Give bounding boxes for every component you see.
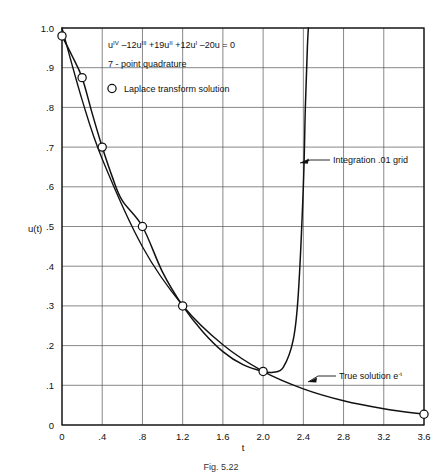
legend: Laplace transform solution (108, 84, 230, 94)
y-tick-label: 0 (49, 420, 54, 431)
legend-label-laplace: Laplace transform solution (124, 84, 230, 94)
data-point-marker (58, 32, 66, 40)
data-point-marker (98, 143, 106, 151)
y-axis-title: u(t) (28, 223, 42, 234)
x-tick-label: 2.0 (257, 431, 270, 442)
data-point-marker (420, 410, 428, 418)
y-tick-label: .8 (46, 102, 54, 113)
y-tick-label: .4 (46, 261, 54, 272)
y-tick-label: .2 (46, 340, 54, 351)
quadrature-method: 7 - point quadrature (108, 59, 187, 69)
x-tick-label: 2.4 (297, 431, 310, 442)
data-point-marker (138, 222, 146, 230)
x-tick-label: 1.6 (216, 431, 229, 442)
data-point-marker (78, 74, 86, 82)
x-tick-label: 1.2 (176, 431, 189, 442)
y-tick-label: .9 (46, 62, 54, 73)
legend-open-circle-icon (108, 84, 116, 92)
x-tick-label: 3.2 (377, 431, 390, 442)
data-point-marker (179, 302, 187, 310)
annotation-label-true-solution: True solution e-t (339, 370, 402, 381)
y-tick-label: .3 (46, 300, 54, 311)
figure-container: 0.4.81.21.62.02.42.83.23.6 0.1.2.3.4.5.6… (0, 0, 443, 475)
figure-caption: Fig. 5.22 (203, 462, 238, 472)
annotation-label-integration: Integration .01 grid (333, 155, 408, 165)
y-tick-label: .5 (46, 221, 54, 232)
x-tick-label: .4 (98, 431, 106, 442)
y-tick-label: .6 (46, 181, 54, 192)
x-tick-label: 0 (59, 431, 64, 442)
x-tick-label: 3.6 (417, 431, 430, 442)
chart-canvas: 0.4.81.21.62.02.42.83.23.6 0.1.2.3.4.5.6… (0, 0, 443, 475)
data-point-marker (259, 367, 267, 375)
y-tick-label: .7 (46, 142, 54, 153)
y-tick-label: 1.0 (41, 23, 54, 34)
x-tick-label: 2.8 (337, 431, 350, 442)
x-axis-title: t (242, 442, 245, 453)
y-tick-label: .1 (46, 380, 54, 391)
x-tick-label: .8 (138, 431, 146, 442)
chart-background (0, 0, 443, 475)
